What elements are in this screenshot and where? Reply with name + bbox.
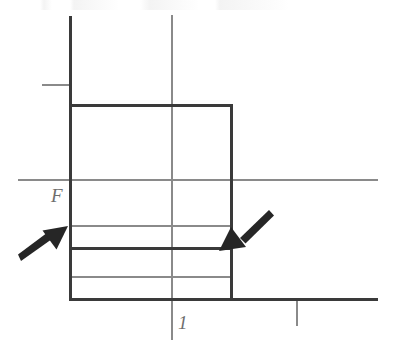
unit-tick-label: 1: [178, 313, 188, 332]
diagram-canvas: F 1: [0, 0, 395, 357]
right-force-arrow: [219, 210, 274, 251]
left-force-arrow: [18, 226, 68, 261]
force-label: F: [51, 186, 63, 205]
diagram-svg: [0, 0, 395, 357]
